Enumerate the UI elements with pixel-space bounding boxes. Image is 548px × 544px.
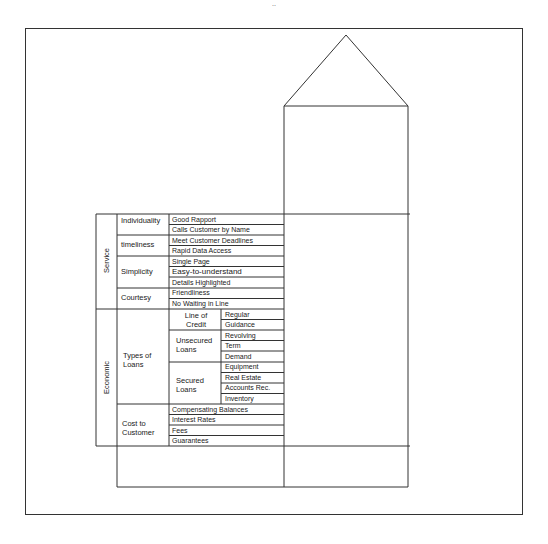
item-term: Term <box>225 342 241 350</box>
section-label-economic: Economic <box>102 353 111 403</box>
item-calls-customer-by-name: Calls Customer by Name <box>172 226 250 234</box>
category-timeliness: timeliness <box>121 240 154 249</box>
item-interest-rates: Interest Rates <box>172 416 216 424</box>
category-types-of-loans: Types of Loans <box>123 351 163 369</box>
item-no-waiting-in-line: No Waiting in Line <box>172 300 229 308</box>
outer-frame <box>26 29 523 515</box>
item-good-rapport: Good Rapport <box>172 216 216 224</box>
item-accounts-rec: Accounts Rec. <box>225 384 270 392</box>
subcategory-secured-loans: Secured Loans <box>176 376 216 394</box>
item-fees: Fees <box>172 427 188 435</box>
roof-triangle <box>284 35 408 106</box>
item-revolving: Revolving <box>225 332 256 340</box>
item-easy-to-understand: Easy-to-understand <box>172 268 242 276</box>
item-regular: Regular <box>225 311 250 319</box>
item-guarantees: Guarantees <box>172 437 209 445</box>
item-demand: Demand <box>225 353 251 361</box>
item-guidance: Guidance <box>225 321 255 329</box>
category-simplicity: Simplicity <box>121 267 153 276</box>
item-meet-customer-deadlines: Meet Customer Deadlines <box>172 237 253 245</box>
category-individuality: Individuality <box>121 216 160 225</box>
house-of-quality-diagram <box>0 0 548 544</box>
item-rapid-data-access: Rapid Data Access <box>172 247 231 255</box>
item-details-highlighted: Details Highlighted <box>172 279 230 287</box>
item-friendliness: Friendliness <box>172 289 210 297</box>
subcategory-unsecured-loans: Unsecured Loans <box>176 336 218 354</box>
subcategory-line-of-credit: Line of Credit <box>178 311 214 329</box>
item-compensating-balances: Compensating Balances <box>172 406 248 414</box>
category-courtesy: Courtesy <box>121 293 151 302</box>
section-label-service: Service <box>102 241 111 281</box>
item-single-page: Single Page <box>172 258 210 266</box>
item-equipment: Equipment <box>225 363 258 371</box>
item-inventory: Inventory <box>225 395 254 403</box>
category-cost-to-customer: Cost to Customer <box>122 419 166 437</box>
item-real-estate: Real Estate <box>225 374 261 382</box>
